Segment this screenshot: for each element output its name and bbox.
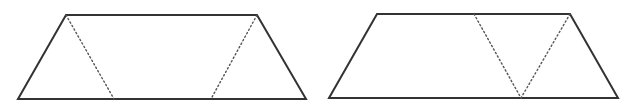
right-trapezoid-figure — [329, 14, 618, 98]
right-trapezoid-dotted-line-2 — [521, 14, 570, 98]
left-trapezoid-dotted-line-1 — [66, 15, 114, 99]
right-trapezoid-outline — [329, 14, 618, 98]
trapezoid-diagram — [0, 0, 633, 107]
left-trapezoid-dotted-line-2 — [211, 15, 257, 99]
right-trapezoid-dotted-line-1 — [474, 14, 521, 98]
left-trapezoid-outline — [18, 15, 306, 99]
left-trapezoid-figure — [18, 15, 306, 99]
